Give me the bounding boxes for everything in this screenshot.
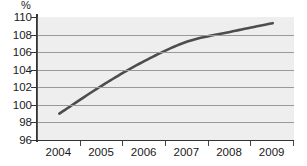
y-axis-tick-mark <box>31 70 37 71</box>
plot-area <box>38 17 294 140</box>
gridline <box>38 70 294 71</box>
gridline <box>38 87 294 88</box>
x-axis-tick-label: 2006 <box>131 146 157 159</box>
x-axis-tick-labels: 200420052006200720082009 <box>0 146 307 166</box>
y-axis-tick-labels: 1101081061041021009896 <box>0 11 34 141</box>
y-axis-tick-label: 110 <box>14 12 32 23</box>
gridline <box>38 35 294 36</box>
y-axis-tick-mark <box>31 105 37 106</box>
y-axis-tick-label: 100 <box>13 99 32 110</box>
x-axis-tick-label: 2008 <box>216 146 242 159</box>
x-axis-tick-mark <box>250 141 251 146</box>
gridline <box>38 52 294 53</box>
y-axis-tick-mark <box>31 17 37 18</box>
y-axis-unit-label: % <box>21 0 31 11</box>
x-axis-tick-mark <box>208 141 209 146</box>
plot-area-background <box>37 17 294 140</box>
x-axis-tick-mark <box>80 141 81 146</box>
y-axis-tick-label: 104 <box>13 64 32 75</box>
y-axis-tick-label: 102 <box>13 82 32 93</box>
data-series-line <box>59 23 272 113</box>
x-axis-tick-label: 2007 <box>174 146 200 159</box>
y-axis-tick-mark <box>31 140 37 141</box>
x-axis-tick-mark <box>293 141 294 146</box>
line-chart: % 1101081061041021009896 200420052006200… <box>0 0 307 166</box>
x-axis-tick-mark <box>122 141 123 146</box>
y-axis-tick-mark <box>31 87 37 88</box>
y-axis-tick-mark <box>31 52 37 53</box>
x-axis-tick-mark <box>165 141 166 146</box>
gridline <box>38 122 294 123</box>
y-axis-tick-label: 108 <box>13 29 32 40</box>
y-axis-tick-mark <box>31 122 37 123</box>
y-axis-tick-mark <box>31 35 37 36</box>
y-axis-tick-label: 106 <box>13 47 32 58</box>
x-axis-tick-label: 2005 <box>88 146 114 159</box>
x-axis-tick-label: 2009 <box>259 146 285 159</box>
gridline <box>38 105 294 106</box>
x-axis-tick-label: 2004 <box>46 146 72 159</box>
